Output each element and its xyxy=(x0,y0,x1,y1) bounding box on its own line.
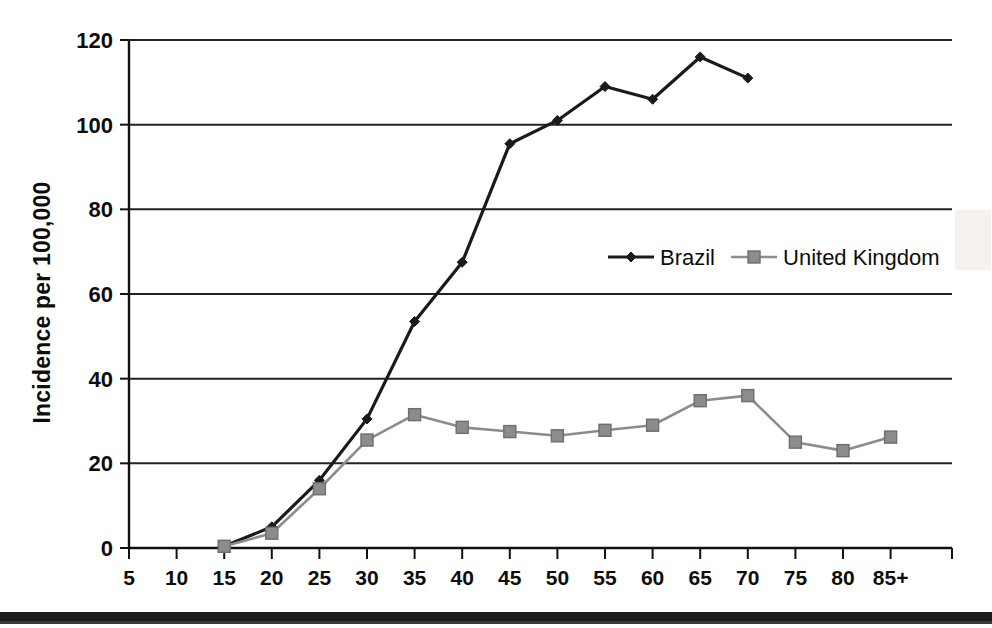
x-axis-tick-label: 50 xyxy=(546,566,569,589)
x-axis-tick-label: 45 xyxy=(498,566,522,589)
y-axis-tick-label: 40 xyxy=(89,367,113,392)
x-axis-tick-label: 5 xyxy=(123,566,135,589)
y-axis-tick-label: 20 xyxy=(89,451,113,476)
y-axis-tick-label: 60 xyxy=(89,282,113,307)
x-axis-tick-label: 60 xyxy=(641,566,664,589)
x-axis-tick-label: 40 xyxy=(451,566,474,589)
x-axis-ticks-group: 510152025303540455055606570758085+ xyxy=(123,548,952,589)
x-axis-tick-label: 25 xyxy=(308,566,332,589)
chart-legend: BrazilUnited Kingdom xyxy=(608,245,940,270)
x-axis-tick-label: 75 xyxy=(784,566,808,589)
x-axis-tick-label: 35 xyxy=(403,566,427,589)
x-axis-tick-label: 15 xyxy=(213,566,237,589)
x-axis-tick-label: 55 xyxy=(593,566,617,589)
x-axis-tick-label: 10 xyxy=(165,566,188,589)
data-point-marker xyxy=(837,445,849,457)
y-axis-ticks-group: 020406080100120 xyxy=(76,28,129,561)
data-point-marker xyxy=(743,73,753,83)
series-line xyxy=(224,57,748,546)
x-axis-tick-label: 70 xyxy=(736,566,759,589)
data-point-marker xyxy=(694,395,706,407)
data-point-marker xyxy=(266,527,278,539)
series-line xyxy=(224,396,890,547)
legend-item-label: United Kingdom xyxy=(783,245,940,270)
scan-smudge xyxy=(955,210,991,270)
chart-figure: Incidence per 100,000 020406080100120 51… xyxy=(0,0,992,628)
data-point-marker xyxy=(505,139,515,149)
data-point-marker xyxy=(742,390,754,402)
line-chart-plot: 020406080100120 510152025303540455055606… xyxy=(0,0,992,628)
x-axis-tick-label: 80 xyxy=(831,566,854,589)
x-axis-tick-label: 65 xyxy=(689,566,713,589)
data-point-marker xyxy=(361,434,373,446)
y-axis-tick-label: 80 xyxy=(89,197,113,222)
page-edge-bar xyxy=(0,612,992,621)
data-point-marker xyxy=(885,431,897,443)
data-point-marker xyxy=(551,430,563,442)
data-point-marker xyxy=(313,483,325,495)
data-point-marker xyxy=(626,252,636,262)
data-point-marker xyxy=(456,421,468,433)
legend-item-label: Brazil xyxy=(660,245,715,270)
data-point-marker xyxy=(218,540,230,552)
y-axis-tick-label: 120 xyxy=(76,28,113,53)
data-point-marker xyxy=(748,251,760,263)
data-point-marker xyxy=(647,419,659,431)
x-axis-tick-label: 20 xyxy=(260,566,283,589)
data-series-group xyxy=(218,52,896,552)
y-axis-tick-label: 100 xyxy=(76,113,113,138)
data-point-marker xyxy=(599,424,611,436)
x-axis-tick-label: 85+ xyxy=(873,566,909,589)
page-edge-bar-shadow xyxy=(0,621,992,624)
y-axis-tick-label: 0 xyxy=(101,536,113,561)
data-point-marker xyxy=(789,436,801,448)
data-point-marker xyxy=(504,426,516,438)
x-axis-tick-label: 30 xyxy=(355,566,378,589)
data-point-marker xyxy=(409,409,421,421)
